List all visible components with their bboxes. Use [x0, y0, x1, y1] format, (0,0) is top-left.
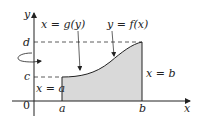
- origin-label: 0: [23, 99, 30, 112]
- tick-b: b: [139, 102, 146, 115]
- g-label-pointer: [78, 31, 80, 70]
- label-x-equals-g-y: x = g(y): [41, 18, 85, 31]
- x-axis-label: x: [184, 102, 191, 115]
- label-y-equals-f-x: y = f(x): [106, 18, 148, 31]
- shaded-region: [62, 42, 142, 101]
- tick-a: a: [59, 102, 66, 115]
- tick-d: d: [23, 36, 30, 49]
- label-x-equals-a: x = a: [36, 82, 65, 95]
- volume-by-shells-diagram: y x 0 d c a b x = g(y) y = f(x) x = a x …: [0, 0, 200, 121]
- label-x-equals-b: x = b: [146, 67, 175, 80]
- f-label-pointer: [112, 31, 114, 56]
- y-axis-label: y: [23, 8, 31, 21]
- tick-c: c: [24, 70, 30, 83]
- rotation-arrow-icon: [18, 53, 41, 62]
